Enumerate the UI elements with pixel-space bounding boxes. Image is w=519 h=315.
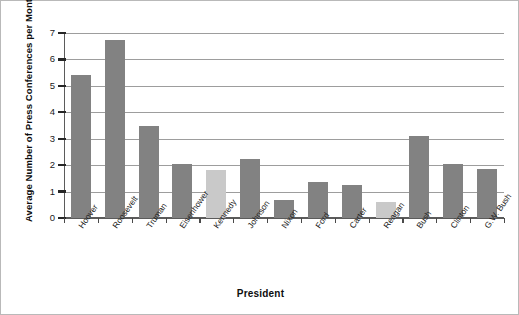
bar: [105, 40, 125, 218]
x-axis-tick: [335, 218, 336, 223]
y-axis-tick-label: 3: [25, 134, 55, 144]
y-axis-tick-label: 4: [25, 107, 55, 117]
gridline: [65, 192, 504, 193]
y-axis-tick: [58, 138, 66, 140]
x-axis-tick: [470, 218, 471, 223]
y-axis-tick-label: 1: [25, 187, 55, 197]
y-axis-tick: [58, 85, 66, 87]
gridline: [65, 59, 504, 60]
x-axis-tick: [369, 218, 370, 223]
x-axis-tick: [233, 218, 234, 223]
bar: [71, 75, 91, 218]
x-axis-tick: [402, 218, 403, 223]
bar: [139, 126, 159, 219]
x-axis-tick: [301, 218, 302, 223]
y-axis-tick-label: 7: [25, 28, 55, 38]
bar: [409, 136, 429, 218]
y-axis-tick: [58, 164, 66, 166]
x-axis-tick: [98, 218, 99, 223]
x-axis-tick: [436, 218, 437, 223]
y-axis-tick-label: 6: [25, 54, 55, 64]
x-axis-title: President: [1, 288, 519, 299]
x-axis-tick: [132, 218, 133, 223]
x-axis-tick: [199, 218, 200, 223]
x-axis-tick: [64, 218, 65, 223]
y-axis-tick-label: 2: [25, 160, 55, 170]
y-axis-tick: [58, 111, 66, 113]
x-axis-tick: [267, 218, 268, 223]
y-axis-tick-label: 0: [25, 213, 55, 223]
gridline: [65, 112, 504, 113]
y-axis-tick: [58, 190, 66, 192]
gridline: [65, 86, 504, 87]
y-axis-tick-label: 5: [25, 81, 55, 91]
y-axis-tick: [58, 32, 66, 34]
gridline: [65, 165, 504, 166]
plot-area: [64, 33, 504, 218]
gridline: [65, 139, 504, 140]
chart-figure: Average Number of Press Conferences per …: [0, 0, 519, 315]
x-axis-tick: [166, 218, 167, 223]
x-axis-tick: [504, 218, 505, 223]
y-axis-tick: [58, 58, 66, 60]
gridline: [65, 33, 504, 34]
